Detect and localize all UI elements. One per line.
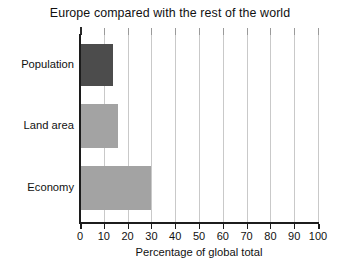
top-tick-90	[294, 28, 295, 35]
top-tick-40	[175, 28, 176, 35]
x-tick-10	[104, 224, 105, 229]
x-tick-90	[294, 224, 295, 229]
top-tick-30	[151, 28, 152, 35]
x-tick-60	[223, 224, 224, 229]
x-tick-100	[318, 224, 320, 229]
chart-title: Europe compared with the rest of the wor…	[0, 6, 340, 20]
top-tick-80	[270, 28, 271, 35]
gridline-40	[175, 30, 176, 222]
gridline-70	[247, 30, 248, 222]
x-tick-label-100: 100	[304, 230, 332, 243]
top-tick-20	[128, 28, 129, 35]
bar-economy	[80, 166, 151, 210]
x-tick-80	[270, 224, 271, 229]
bar-economy-fill	[80, 166, 151, 210]
bar-chart-figure: Europe compared with the rest of the wor…	[0, 0, 340, 267]
top-tick-50	[199, 28, 200, 35]
x-tick-20	[128, 224, 129, 229]
plot-area	[80, 36, 318, 222]
bar-land-area	[80, 104, 118, 148]
top-tick-100	[318, 28, 319, 35]
x-tick-50	[199, 224, 200, 229]
gridline-50	[199, 30, 200, 222]
gridline-100	[318, 30, 319, 222]
x-tick-30	[151, 224, 152, 229]
top-tick-60	[223, 28, 224, 35]
gridline-30	[151, 30, 152, 222]
x-axis-title: Percentage of global total	[80, 246, 318, 259]
x-tick-0	[80, 224, 82, 229]
x-tick-40	[175, 224, 176, 229]
gridline-90	[294, 30, 295, 222]
y-axis-category-label-population: Population	[21, 58, 74, 71]
y-axis-line	[79, 34, 81, 224]
bar-land-area-fill	[80, 104, 118, 148]
top-tick-10	[104, 28, 105, 35]
top-tick-70	[247, 28, 248, 35]
y-axis-category-label-land-area: Land area	[24, 119, 74, 132]
bar-population-fill	[80, 44, 113, 86]
gridline-80	[270, 30, 271, 222]
gridline-60	[223, 30, 224, 222]
x-tick-70	[247, 224, 248, 229]
bar-population	[80, 44, 113, 86]
y-axis-category-label-economy: Economy	[27, 181, 74, 194]
